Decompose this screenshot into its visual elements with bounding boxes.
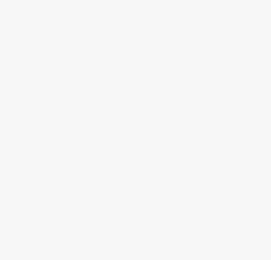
drawing-canvas (0, 0, 271, 260)
line-drawing (0, 0, 271, 260)
